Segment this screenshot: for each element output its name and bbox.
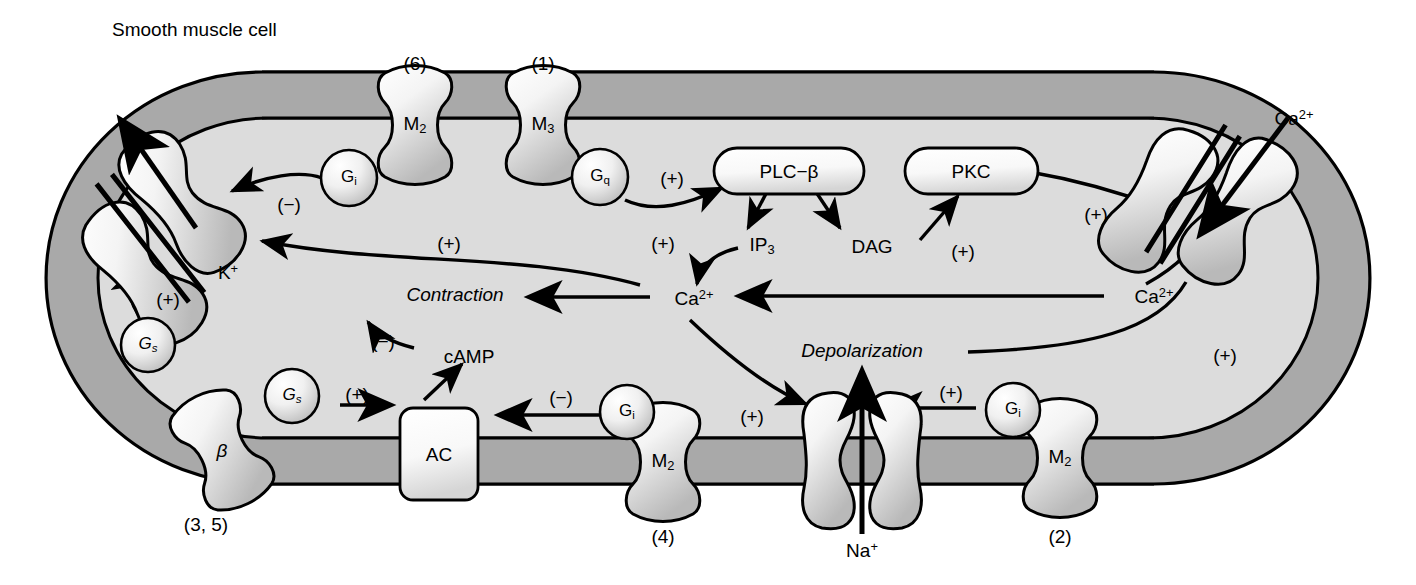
enzyme-label-ac: AC xyxy=(426,445,452,464)
g-sub: i xyxy=(1018,407,1021,419)
g-sub: q xyxy=(603,174,609,186)
g-protein-label-gi-bottom-right: Gi xyxy=(1005,400,1021,419)
receptor-number-beta-left: (3, 5) xyxy=(184,515,228,534)
ion-label-sodium: Na+ xyxy=(846,541,878,560)
g-protein-label-gi-top-left: Gi xyxy=(341,168,357,187)
ca-text: Ca xyxy=(674,288,698,309)
ip3-sub: 3 xyxy=(767,242,774,257)
receptor-sub: 3 xyxy=(547,121,554,136)
sign-dag-to-pkc: (+) xyxy=(951,242,975,261)
receptor-label-m2-bottom-right: M2 xyxy=(1048,447,1071,469)
messenger-label-dag: DAG xyxy=(851,237,892,256)
receptor-number-m2-bottom-right: (2) xyxy=(1048,527,1071,546)
g-protein-label-gi-bottom-mid: Gi xyxy=(619,402,635,421)
g-letter: G xyxy=(619,401,632,420)
g-letter: G xyxy=(282,385,295,404)
receptor-letter: M xyxy=(531,113,547,134)
sign-gi-to-k-channel: (−) xyxy=(277,195,301,214)
receptor-sub: 2 xyxy=(419,121,426,136)
page-title: Smooth muscle cell xyxy=(112,20,277,39)
na-sup: + xyxy=(870,539,878,554)
ion-label-potassium: K+ xyxy=(218,263,238,282)
receptor-label-m3-top: M3 xyxy=(531,114,554,136)
ip3-text: IP xyxy=(749,234,767,255)
receptor-letter: M xyxy=(403,113,419,134)
receptor-letter: M xyxy=(1048,446,1064,467)
outcome-label-contraction: Contraction xyxy=(406,285,503,304)
membrane-band-bottom xyxy=(262,438,1154,484)
receptor-number-m3-top: (1) xyxy=(531,54,554,73)
sign-gs-to-ac: (+) xyxy=(345,385,369,404)
receptor-letter: M xyxy=(651,450,667,471)
sign-gi-to-ac: (−) xyxy=(549,388,573,407)
receptor-label-m2-top-left: M2 xyxy=(403,114,426,136)
ca-text: Ca xyxy=(1274,108,1298,129)
sign-gs-to-k-channel: (+) xyxy=(156,290,180,309)
g-sub: i xyxy=(354,175,357,187)
sign-gi-to-na-channel: (+) xyxy=(939,383,963,402)
g-sub: s xyxy=(296,393,302,405)
g-protein-label-gs-left-upper: Gs xyxy=(138,335,157,354)
enzyme-label-pkc: PKC xyxy=(951,162,990,181)
receptor-sub: 2 xyxy=(667,458,674,473)
k-text: K xyxy=(218,262,231,283)
receptor-number-m2-top-left: (6) xyxy=(403,54,426,73)
g-sub: s xyxy=(152,342,158,354)
ion-label-ca-extracellular: Ca2+ xyxy=(1274,109,1313,128)
g-letter: G xyxy=(138,334,151,353)
sign-gq-to-plc: (+) xyxy=(660,169,684,188)
messenger-label-ip3: IP3 xyxy=(749,235,774,257)
figure-canvas: (-) --> K channel --> (+) --> PLC-beta -… xyxy=(0,0,1416,585)
ca-text: Ca xyxy=(1134,286,1158,307)
k-sup: + xyxy=(231,261,239,276)
ca-sup: 2+ xyxy=(1159,285,1174,300)
receptor-number-m2-bottom-mid: (4) xyxy=(651,527,674,546)
sign-depol-to-ca: (+) xyxy=(1213,346,1237,365)
receptor-label-beta-left: β xyxy=(217,441,228,460)
ca-sup: 2+ xyxy=(699,287,714,302)
receptor-label-m2-bottom-mid: M2 xyxy=(651,451,674,473)
sign-ca-to-k-channel: (+) xyxy=(437,234,461,253)
ca-sup: 2+ xyxy=(1299,107,1314,122)
messenger-label-ca-cytoplasm: Ca2+ xyxy=(674,289,713,308)
g-letter: G xyxy=(1005,399,1018,418)
messenger-label-ca-inner-right: Ca2+ xyxy=(1134,287,1173,306)
messenger-label-camp: cAMP xyxy=(444,347,495,366)
g-letter: G xyxy=(341,167,354,186)
g-sub: i xyxy=(632,409,635,421)
sign-ca-to-depolarization: (+) xyxy=(740,407,764,426)
sign-ip3-to-ca: (+) xyxy=(651,234,675,253)
g-protein-label-gs-left-lower: Gs xyxy=(282,386,301,405)
g-letter: G xyxy=(590,166,603,185)
sign-pkc-to-ca-channel: (+) xyxy=(1084,205,1108,224)
g-protein-label-gq-top: Gq xyxy=(590,167,610,186)
sign-camp-to-contraction: (−) xyxy=(371,332,395,351)
enzyme-label-plc-beta: PLC−β xyxy=(760,162,819,181)
receptor-sub: 2 xyxy=(1064,454,1071,469)
outcome-label-depolarization: Depolarization xyxy=(801,341,922,360)
na-text: Na xyxy=(846,540,870,561)
